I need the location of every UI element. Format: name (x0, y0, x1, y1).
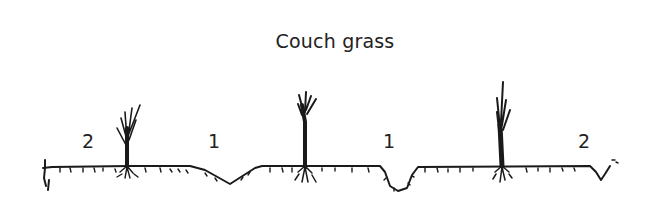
soil-profile-drawing (0, 0, 648, 221)
soil-texture-ticks (60, 160, 618, 191)
couch-grass-plant-2 (295, 92, 316, 182)
